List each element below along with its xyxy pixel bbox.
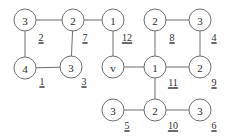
edge-label-text: 3 — [82, 76, 87, 87]
graph-node-label: 2 — [70, 15, 76, 27]
edge-label-text: 12 — [122, 32, 132, 43]
edge-label: 5 — [124, 120, 129, 132]
edge-label-text: 7 — [83, 32, 88, 43]
graph-canvas: 3212343v12323 213712849115106 — [0, 0, 229, 138]
graph-node-label: 2 — [152, 105, 158, 117]
edge-label: 2 — [38, 32, 43, 44]
edge-label: 1 — [39, 76, 44, 88]
edge-label-text: 11 — [168, 77, 178, 88]
graph-edge — [71, 31, 72, 56]
edge-label-text: 10 — [168, 120, 178, 131]
edge-label: 6 — [211, 120, 216, 132]
graph-node-label: 1 — [152, 62, 158, 74]
edge-label-text: 4 — [212, 32, 217, 43]
edge-label: 9 — [211, 77, 216, 89]
graph-node-label: 3 — [197, 105, 203, 117]
graph-node-label: 3 — [110, 105, 116, 117]
graph-edge — [36, 67, 60, 68]
edge-label: 8 — [169, 32, 174, 44]
edge-label: 11 — [168, 77, 178, 89]
graph-diagram: 3212343v12323 213712849115106 — [0, 0, 229, 138]
edge-label-text: 1 — [40, 76, 45, 87]
edge-label-text: 5 — [125, 120, 130, 131]
edge-label-text: 9 — [212, 77, 217, 88]
edge-label: 3 — [81, 76, 86, 88]
graph-node-label: 1 — [110, 15, 116, 27]
graph-node-label: v — [110, 62, 116, 74]
graph-node-label: 3 — [197, 15, 203, 27]
edge-label: 10 — [168, 120, 178, 132]
edge-label: 7 — [82, 32, 87, 44]
graph-node-label: 4 — [22, 63, 28, 75]
edge-label-text: 6 — [212, 120, 217, 131]
graph-node-label: 2 — [152, 15, 158, 27]
edge-label-text: 2 — [39, 32, 44, 43]
edge-label: 12 — [122, 32, 132, 44]
graph-node-label: 3 — [68, 62, 74, 74]
edge-labels-layer: 213712849115106 — [38, 32, 216, 132]
edge-label: 4 — [211, 32, 216, 44]
edge-label-text: 8 — [170, 32, 175, 43]
nodes-layer: 3212343v12323 — [14, 9, 211, 121]
graph-node-label: 2 — [197, 62, 203, 74]
graph-node-label: 3 — [22, 15, 28, 27]
